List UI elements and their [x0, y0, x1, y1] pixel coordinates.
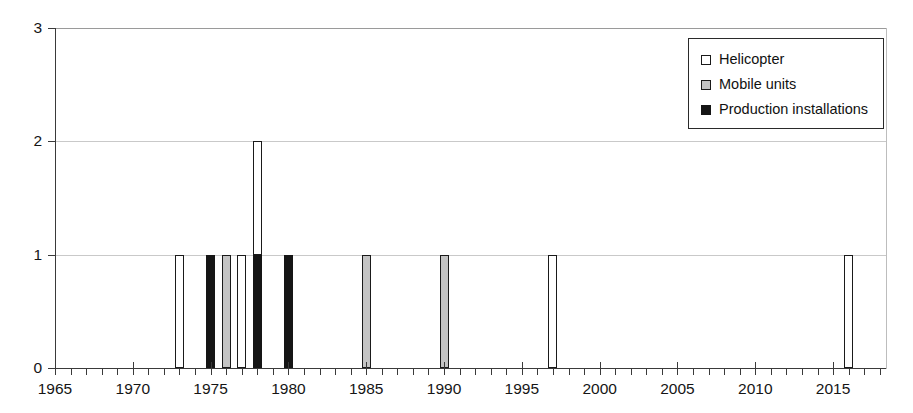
bar-1978-production-installations — [253, 255, 262, 368]
black-square-icon — [701, 105, 711, 115]
x-tick-minor-1966 — [71, 369, 72, 375]
x-tick-minor-1979 — [273, 369, 274, 375]
x-tick-major-2000 — [600, 362, 601, 375]
y-axis-label-2: 2 — [14, 133, 42, 149]
x-tick-minor-1989 — [428, 369, 429, 375]
x-tick-minor-1991 — [460, 369, 461, 375]
y-axis-line — [55, 28, 56, 369]
y-tick-2 — [48, 141, 56, 142]
x-tick-minor-2017 — [864, 369, 865, 375]
bar-1977-helicopter — [237, 255, 246, 368]
x-tick-minor-1982 — [320, 369, 321, 375]
x-tick-minor-1987 — [397, 369, 398, 375]
bar-chart: 0123 19651970197519801985199019952000200… — [0, 0, 913, 413]
x-axis-label-1990: 1990 — [414, 381, 474, 397]
x-axis-label-1980: 1980 — [258, 381, 318, 397]
x-tick-minor-1971 — [148, 369, 149, 375]
gridline-y-3 — [55, 28, 886, 29]
x-tick-minor-2003 — [646, 369, 647, 375]
x-tick-minor-1978 — [257, 369, 258, 375]
legend-item-label: Helicopter — [719, 52, 784, 67]
y-axis-label-1: 1 — [14, 247, 42, 263]
x-axis-label-1995: 1995 — [492, 381, 552, 397]
x-tick-minor-1976 — [226, 369, 227, 375]
x-axis-label-1975: 1975 — [181, 381, 241, 397]
x-tick-minor-2012 — [786, 369, 787, 375]
chart-legend: HelicopterMobile unitsProduction install… — [688, 38, 884, 129]
x-axis-label-1970: 1970 — [103, 381, 163, 397]
x-tick-minor-2009 — [740, 369, 741, 375]
x-tick-minor-2001 — [615, 369, 616, 375]
y-axis-label-3: 3 — [14, 20, 42, 36]
x-axis-label-2010: 2010 — [725, 381, 785, 397]
legend-item-label: Mobile units — [719, 77, 796, 92]
bar-2016-helicopter — [844, 255, 853, 368]
x-tick-minor-1968 — [102, 369, 103, 375]
gridline-y-2 — [55, 141, 886, 142]
x-axis-label-2005: 2005 — [647, 381, 707, 397]
x-tick-minor-2016 — [849, 369, 850, 375]
x-tick-minor-1999 — [584, 369, 585, 375]
x-tick-minor-1992 — [475, 369, 476, 375]
bar-1978-helicopter — [253, 141, 262, 254]
x-tick-minor-1972 — [164, 369, 165, 375]
bar-1973-helicopter — [175, 255, 184, 368]
legend-item-mobile-units[interactable]: Mobile units — [701, 72, 873, 97]
legend-item-helicopter[interactable]: Helicopter — [701, 47, 873, 72]
x-tick-major-1985 — [366, 362, 367, 375]
x-tick-major-1970 — [133, 362, 134, 375]
legend-item-label: Production installations — [719, 102, 868, 117]
x-tick-minor-1997 — [553, 369, 554, 375]
x-tick-major-1965 — [55, 362, 56, 375]
x-tick-minor-1973 — [179, 369, 180, 375]
x-tick-minor-2014 — [818, 369, 819, 375]
x-tick-minor-1984 — [351, 369, 352, 375]
gray-square-icon — [701, 80, 711, 90]
x-tick-major-2005 — [677, 362, 678, 375]
x-tick-minor-1974 — [195, 369, 196, 375]
x-tick-minor-1981 — [304, 369, 305, 375]
x-tick-minor-2006 — [693, 369, 694, 375]
x-tick-minor-2011 — [771, 369, 772, 375]
x-tick-major-1980 — [288, 362, 289, 375]
y-tick-3 — [48, 28, 56, 29]
x-axis-label-2000: 2000 — [570, 381, 630, 397]
y-axis-label-0: 0 — [14, 360, 42, 376]
bar-1975-production-installations — [206, 255, 215, 368]
x-tick-minor-2018 — [880, 369, 881, 375]
bar-1980-production-installations — [284, 255, 293, 368]
x-tick-major-2010 — [755, 362, 756, 375]
legend-item-production-installations[interactable]: Production installations — [701, 97, 873, 122]
x-tick-minor-1983 — [335, 369, 336, 375]
x-tick-minor-1969 — [117, 369, 118, 375]
bar-1997-helicopter — [548, 255, 557, 368]
x-axis-label-1985: 1985 — [336, 381, 396, 397]
plot-right-border — [886, 28, 887, 369]
x-tick-minor-1988 — [413, 369, 414, 375]
white-square-icon — [701, 55, 711, 65]
x-tick-minor-1967 — [86, 369, 87, 375]
x-tick-minor-1986 — [382, 369, 383, 375]
x-tick-major-1990 — [444, 362, 445, 375]
x-axis-label-2015: 2015 — [803, 381, 863, 397]
x-tick-minor-1998 — [569, 369, 570, 375]
x-tick-minor-2008 — [724, 369, 725, 375]
bar-1985-mobile-units — [362, 255, 371, 368]
x-tick-minor-1994 — [506, 369, 507, 375]
x-tick-minor-2013 — [802, 369, 803, 375]
x-tick-major-2015 — [833, 362, 834, 375]
x-tick-major-1995 — [522, 362, 523, 375]
y-tick-1 — [48, 255, 56, 256]
x-tick-minor-2007 — [709, 369, 710, 375]
x-tick-minor-1993 — [491, 369, 492, 375]
x-tick-minor-2004 — [662, 369, 663, 375]
bar-1976-mobile-units — [222, 255, 231, 368]
bar-1990-mobile-units — [440, 255, 449, 368]
x-tick-major-1975 — [211, 362, 212, 375]
x-tick-minor-2002 — [631, 369, 632, 375]
x-axis-label-1965: 1965 — [25, 381, 85, 397]
x-tick-minor-1977 — [242, 369, 243, 375]
x-tick-minor-1996 — [537, 369, 538, 375]
